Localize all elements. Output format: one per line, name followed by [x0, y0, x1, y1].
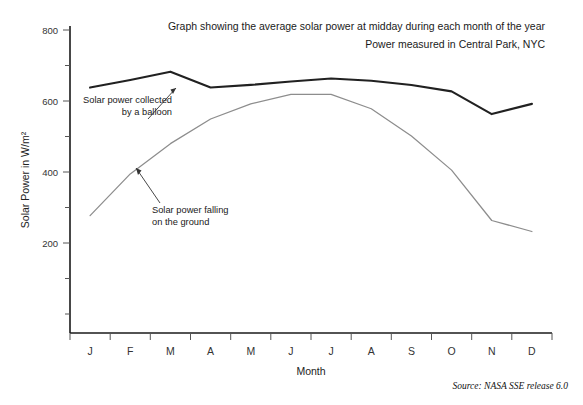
x-axis-title: Month — [296, 365, 325, 377]
x-label-month-3: M — [166, 345, 175, 357]
chart-subtitle: Power measured in Central Park, NYC — [365, 38, 545, 50]
chart-title: Graph showing the average solar power at… — [168, 20, 546, 32]
x-label-month-2: F — [127, 345, 133, 357]
annotation-ground: Solar power falling on the ground — [136, 168, 228, 227]
x-label-month-4: A — [207, 345, 214, 357]
x-label-month-11: N — [488, 345, 496, 357]
x-axis-ticks — [70, 333, 552, 340]
solar-power-chart: Graph showing the average solar power at… — [0, 0, 583, 405]
y-axis-title: Solar Power in W/m² — [19, 131, 31, 228]
source-suffix: release 6.0 — [524, 381, 568, 391]
annotation-balloon: Solar power collected by a balloon — [83, 88, 176, 119]
y-tick-label-200: 200 — [42, 238, 58, 249]
chart-canvas: Graph showing the average solar power at… — [0, 0, 583, 405]
y-tick-label-600: 600 — [42, 96, 58, 107]
x-label-month-5: M — [246, 345, 255, 357]
x-label-month-12: D — [528, 345, 536, 357]
source-name: NASA SSE — [483, 381, 524, 391]
x-label-month-9: S — [408, 345, 415, 357]
x-label-month-1: J — [87, 345, 92, 357]
source-note: Source: NASA SSE release 6.0 — [453, 381, 569, 391]
y-tick-label-400: 400 — [42, 167, 58, 178]
x-label-month-6: J — [288, 345, 293, 357]
y-axis-ticks — [63, 30, 70, 314]
source-prefix: Source: — [453, 381, 485, 391]
y-tick-label-800: 800 — [42, 25, 58, 36]
annotation-balloon-line1: Solar power collected — [83, 95, 172, 105]
x-label-month-10: O — [448, 345, 456, 357]
annotation-balloon-line2: by a balloon — [122, 107, 172, 117]
annotation-ground-line1: Solar power falling — [152, 205, 228, 215]
annotation-ground-line2: on the ground — [152, 217, 209, 227]
x-label-month-8: A — [368, 345, 375, 357]
x-label-month-7: J — [328, 345, 333, 357]
